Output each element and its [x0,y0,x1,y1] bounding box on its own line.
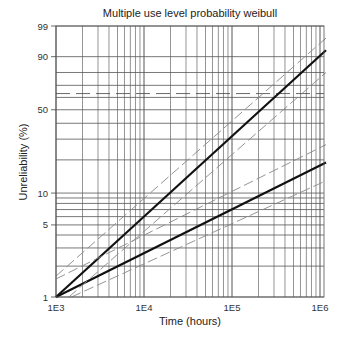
confidence-bound-line [56,145,326,279]
x-tick-label: 1E4 [136,302,153,313]
confidence-bound-line [69,72,326,297]
x-axis-ticks: 1E31E41E51E6 [48,302,329,313]
y-tick-label: 50 [37,104,48,115]
y-tick-label: 10 [37,188,48,199]
x-axis-label: Time (hours) [159,315,221,327]
x-tick-label: 1E5 [224,302,241,313]
x-tick-label: 1E6 [312,302,329,313]
y-axis-label: Unreliability (%) [17,123,29,200]
chart-title: Multiple use level probability weibull [103,7,277,19]
y-axis-ticks: 1510509099 [37,21,56,303]
confidence-bound-line [56,38,326,276]
grid [56,26,324,297]
x-tick-label: 1E3 [48,302,65,313]
fitted-line [56,162,326,297]
y-tick-label: 1 [43,292,48,303]
y-tick-label: 90 [37,51,48,62]
y-tick-label: 99 [37,21,48,32]
plot-area-frame [56,26,324,297]
data-series [56,38,326,297]
weibull-probability-chart: Multiple use level probability weibull 1… [0,0,337,339]
fitted-line [56,50,326,297]
y-tick-label: 5 [43,219,48,230]
